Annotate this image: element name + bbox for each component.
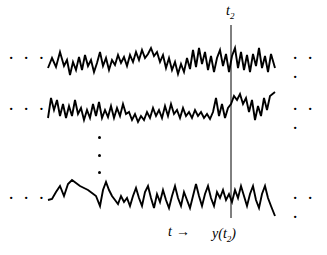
ellipsis-right-realization-2: · · · [292, 99, 327, 137]
arrow-right-icon: → [172, 224, 190, 239]
ellipsis-dot [98, 136, 101, 139]
random-process-ensemble-figure: · · · · · · · · · · · · · · · · · · t2 t… [0, 0, 327, 255]
trace-realization-2 [48, 92, 275, 122]
ellipsis-left-realization-2: · · · [8, 99, 46, 118]
ellipsis-dot [98, 154, 101, 157]
sample-value-label: y(t2) [212, 226, 236, 244]
ellipsis-right-realization-1: · · · [292, 48, 327, 86]
ellipsis-dot [98, 171, 101, 174]
trace-group [48, 48, 275, 216]
time-axis-label: t→ [168, 224, 190, 240]
trace-realization-1 [48, 48, 275, 75]
ellipsis-left-realization-n: · · · [8, 188, 46, 207]
time-slice-label-subscript: 2 [230, 11, 235, 21]
trace-realization-n [48, 180, 275, 216]
ellipsis-left-realization-1: · · · [8, 48, 46, 67]
sample-value-label-base: y(t [212, 226, 227, 241]
time-slice-label: t2 [226, 3, 234, 21]
sample-value-label-tail: ) [231, 226, 236, 241]
traces-canvas [0, 0, 327, 255]
vertical-ellipsis-more-realizations [98, 136, 101, 174]
ellipsis-right-realization-n: · · · [292, 188, 327, 226]
